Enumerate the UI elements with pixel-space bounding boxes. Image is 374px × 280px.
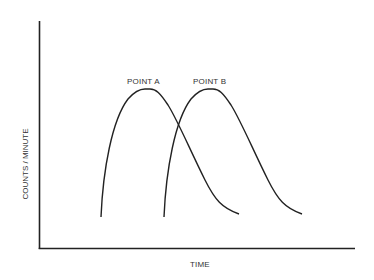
x-axis-label: TIME — [190, 260, 210, 269]
curve-point-a — [101, 89, 239, 217]
y-axis-label: COUNTS / MINUTE — [21, 128, 30, 199]
curve-point-b — [164, 89, 302, 217]
label-point-a: POINT A — [127, 77, 160, 86]
label-point-b: POINT B — [193, 77, 226, 86]
chart-canvas — [0, 0, 374, 280]
